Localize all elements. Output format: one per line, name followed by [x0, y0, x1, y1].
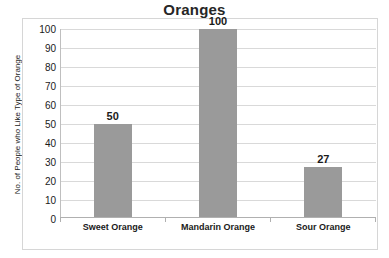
y-axis-tick-labels: 100 90 80 70 60 50 40 30 20 10 0 [12, 0, 56, 232]
bar-value-label: 50 [60, 110, 165, 122]
bar-series: 50 100 27 [60, 29, 376, 218]
y-tick-label: 30 [16, 157, 56, 168]
bar-value-label: 27 [271, 153, 376, 165]
plot-area: 50 100 27 [60, 29, 376, 218]
y-tick-label: 60 [16, 100, 56, 111]
y-tick-label: 40 [16, 138, 56, 149]
y-tick-label: 70 [16, 81, 56, 92]
y-tick-label: 20 [16, 176, 56, 187]
y-tick-label: 80 [16, 62, 56, 73]
y-axis-line [60, 29, 61, 219]
bar[interactable] [304, 167, 342, 218]
x-tick-label: Mandarin Orange [165, 222, 270, 232]
y-tick-label: 90 [16, 43, 56, 54]
x-axis-line [60, 217, 376, 218]
bar-value-label: 100 [165, 15, 270, 27]
bar[interactable] [94, 124, 132, 219]
bar-chart: Oranges No. of People who Like Type of O… [0, 0, 389, 258]
y-tick-label: 0 [16, 214, 56, 225]
x-tick-label: Sweet Orange [60, 222, 165, 232]
y-tick-label: 50 [16, 119, 56, 130]
y-tick-label: 10 [16, 195, 56, 206]
x-tick-label: Sour Orange [271, 222, 376, 232]
bar-slot: 100 [165, 29, 270, 218]
bar-slot: 50 [60, 29, 165, 218]
bar-slot: 27 [271, 29, 376, 218]
bar[interactable] [199, 29, 237, 218]
y-tick-label: 100 [16, 24, 56, 35]
x-axis-category-labels: Sweet Orange Mandarin Orange Sour Orange [60, 222, 376, 232]
